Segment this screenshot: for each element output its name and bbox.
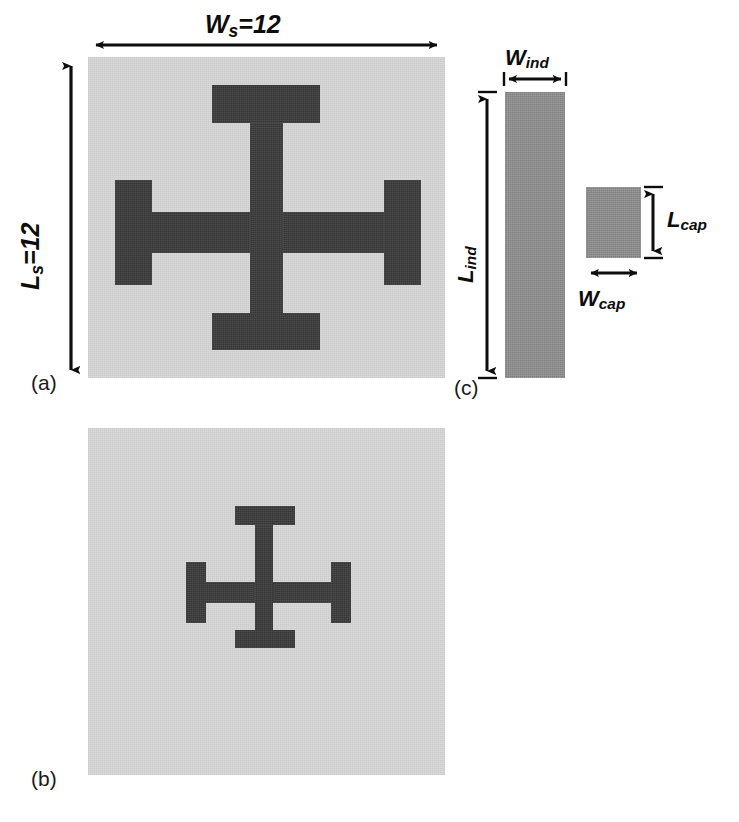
- panel-tag-b: (b): [31, 768, 57, 789]
- ws-subscript: s: [229, 21, 239, 41]
- ws-dimension-label: Ws=12: [205, 12, 281, 40]
- panel-b-cross-vertical-stem: [255, 506, 273, 648]
- wind-subscript: ind: [526, 54, 549, 71]
- panel-a-cross-right-cap: [384, 180, 421, 285]
- panel-tag-c: (c): [454, 377, 479, 398]
- ls-value: =12: [16, 223, 44, 265]
- wind-symbol: W: [505, 45, 526, 70]
- ls-subscript: s: [27, 265, 47, 275]
- wcap-symbol: W: [578, 286, 599, 311]
- lind-symbol: L: [453, 270, 478, 283]
- ws-value: =12: [238, 10, 280, 38]
- lind-subscript: ind: [462, 246, 479, 269]
- panel-b-cross-right-cap: [331, 562, 351, 623]
- figure-canvas: Ws=12 Ls=12 Wind Lind Lcap Wcap (a) (b) …: [0, 0, 739, 822]
- panel-a-cross-left-cap: [115, 180, 152, 285]
- panel-a-cross-bottom-cap: [212, 313, 320, 350]
- panel-c-inductor-strip: [505, 92, 565, 378]
- lcap-subscript: cap: [680, 216, 707, 233]
- wind-dimension-arrow: [504, 72, 566, 86]
- wind-dimension-label: Wind: [505, 47, 549, 71]
- ls-symbol: L: [16, 275, 44, 290]
- wcap-dimension-label: Wcap: [578, 288, 625, 312]
- lcap-dimension-label: Lcap: [667, 209, 707, 233]
- ls-dimension-label: Ls=12: [18, 223, 46, 290]
- panel-b-cross-bottom-cap: [235, 630, 295, 648]
- panel-b-cross-top-cap: [235, 506, 295, 525]
- wcap-subscript: cap: [599, 295, 626, 312]
- panel-a-cross-vertical-stem: [250, 85, 283, 350]
- panel-a-cross-top-cap: [212, 85, 320, 123]
- ws-symbol: W: [205, 10, 229, 38]
- lind-dimension-label: Lind: [455, 246, 479, 283]
- lcap-symbol: L: [667, 207, 680, 232]
- lcap-dimension-arrow: [644, 187, 663, 258]
- panel-tag-a: (a): [31, 372, 57, 393]
- panel-b-cross-left-cap: [186, 562, 206, 623]
- lind-dimension-arrow: [478, 92, 497, 378]
- panel-c-capacitor-patch: [586, 187, 641, 258]
